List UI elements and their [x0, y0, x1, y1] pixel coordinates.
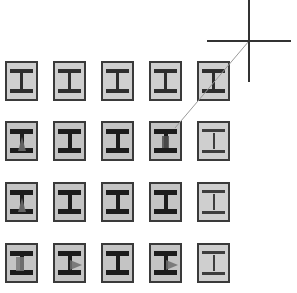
crosshair-cursor-vertical-icon: [248, 0, 250, 82]
rubber-band-line: [0, 0, 297, 293]
